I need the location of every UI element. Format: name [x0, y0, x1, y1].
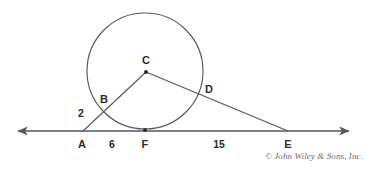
point-label-A: A	[78, 139, 86, 150]
geometry-figure: A B C D E F 2 6 15 © John Wiley & Sons, …	[0, 0, 367, 174]
point-label-B: B	[100, 94, 108, 105]
point-dot-F	[143, 128, 147, 132]
segment-CE	[146, 72, 288, 131]
copyright-credit: © John Wiley & Sons, Inc.	[265, 151, 363, 161]
segment-CA	[83, 72, 146, 131]
length-label-FE: 15	[213, 139, 225, 150]
point-dot-C	[144, 70, 148, 74]
point-label-E: E	[284, 139, 292, 150]
geometry-canvas	[0, 0, 367, 174]
point-label-F: F	[142, 139, 149, 150]
point-label-C: C	[142, 55, 150, 66]
point-label-D: D	[205, 84, 213, 95]
length-label-AF: 6	[109, 139, 115, 150]
length-label-AB: 2	[78, 108, 84, 119]
